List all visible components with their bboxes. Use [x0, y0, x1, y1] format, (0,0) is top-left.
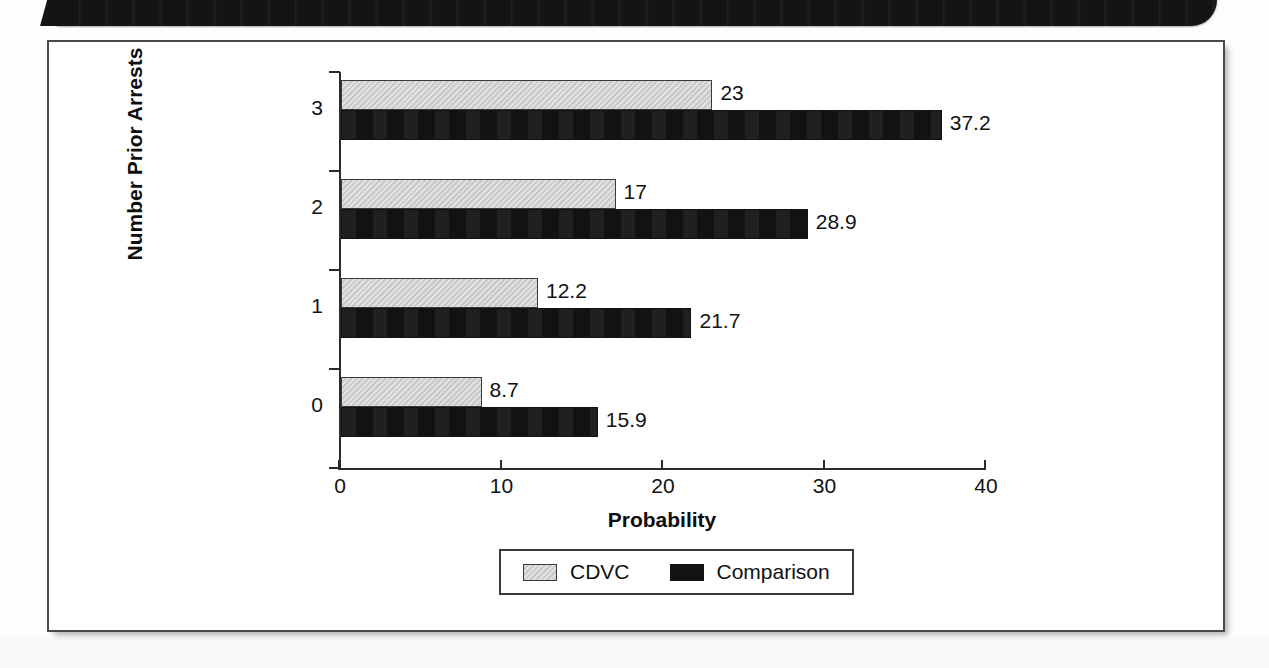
x-axis-title: Probability — [339, 508, 985, 532]
x-tick-label-20: 20 — [633, 474, 693, 498]
x-tick-30 — [823, 460, 825, 470]
bar-cdvc-3 — [341, 80, 712, 110]
bar-value-comparison-0: 15.9 — [606, 408, 647, 432]
legend-entry-cdvc: CDVC — [523, 560, 630, 584]
legend-swatch-icon-cdvc — [523, 564, 557, 581]
bar-value-cdvc-3: 23 — [720, 81, 743, 105]
x-tick-label-40: 40 — [956, 474, 1016, 498]
bar-comparison-3 — [341, 110, 942, 140]
y-boundary-tick — [329, 170, 340, 172]
x-tick-40 — [984, 460, 986, 470]
legend-swatch-icon-comparison — [670, 564, 704, 581]
bar-comparison-0 — [341, 407, 598, 437]
bar-cdvc-2 — [341, 179, 616, 209]
y-tick-label-3: 3 — [281, 96, 323, 120]
y-axis-title: Number Prior Arrests — [123, 4, 147, 304]
bar-value-cdvc-2: 17 — [624, 180, 647, 204]
x-tick-label-0: 0 — [310, 474, 370, 498]
bar-comparison-2 — [341, 209, 808, 239]
y-boundary-tick — [329, 71, 340, 73]
bar-comparison-1 — [341, 308, 691, 338]
bar-value-comparison-1: 21.7 — [699, 309, 740, 333]
x-tick-10 — [500, 460, 502, 470]
scan-smudge — [0, 638, 1269, 668]
bar-value-cdvc-1: 12.2 — [546, 279, 587, 303]
y-boundary-tick — [329, 467, 340, 469]
bar-value-comparison-2: 28.9 — [816, 210, 857, 234]
bar-cdvc-1 — [341, 278, 538, 308]
legend-label-comparison: Comparison — [717, 560, 830, 584]
y-tick-label-2: 2 — [281, 195, 323, 219]
scanned-page-background: 010203040 3210 2337.21728.912.221.78.715… — [0, 0, 1269, 668]
x-tick-label-10: 10 — [472, 474, 532, 498]
page-header-band — [55, 0, 1217, 26]
legend-label-cdvc: CDVC — [570, 560, 630, 584]
x-tick-20 — [661, 460, 663, 470]
y-tick-label-1: 1 — [281, 294, 323, 318]
bar-value-comparison-3: 37.2 — [950, 111, 991, 135]
y-boundary-tick — [329, 368, 340, 370]
figure-frame: 010203040 3210 2337.21728.912.221.78.715… — [47, 40, 1225, 632]
y-tick-label-0: 0 — [281, 393, 323, 417]
bar-chart-plot-area: 010203040 3210 2337.21728.912.221.78.715… — [49, 42, 1223, 630]
bar-cdvc-0 — [341, 377, 482, 407]
legend-entry-comparison: Comparison — [670, 560, 830, 584]
bar-value-cdvc-0: 8.7 — [490, 378, 519, 402]
chart-legend: CDVCComparison — [499, 549, 854, 595]
y-boundary-tick — [329, 269, 340, 271]
x-tick-label-30: 30 — [795, 474, 855, 498]
